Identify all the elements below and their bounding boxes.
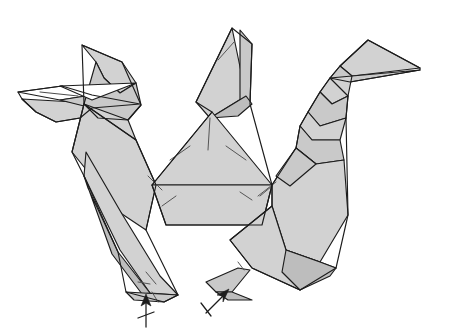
center-body-group xyxy=(152,28,272,225)
center-base-facet xyxy=(152,185,272,225)
left-bird-group xyxy=(18,45,178,302)
center-triangle-facet xyxy=(152,112,272,185)
right-fold-arrow-shaft xyxy=(206,295,224,313)
right-foot-facet xyxy=(206,268,250,292)
origami-diagram-canvas xyxy=(0,0,461,336)
right-fold-arrow xyxy=(201,289,229,316)
